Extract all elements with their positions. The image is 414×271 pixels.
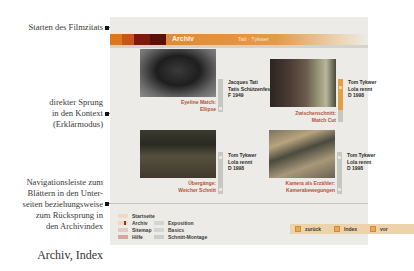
menu-label: Sitemap [132,227,151,233]
header-block [110,34,122,45]
annotation-text: (Erklärmodus) [49,119,103,130]
menu-swatch [118,228,128,232]
film-info: Tom Tykwer Lola rennt D 1998 [347,152,375,172]
nav-index-button[interactable]: Index [334,224,357,234]
scroll-knob[interactable] [339,86,342,89]
scroll-knob[interactable] [219,107,222,110]
menu-label: Exposition [168,220,194,226]
menu-label: Schnitt-Montage [168,234,207,240]
scroll-knob[interactable] [219,188,222,191]
film-thumbnail[interactable] [140,130,216,178]
annotation-text: Blättern in den Unter- [23,188,103,199]
annotation-text: Starten des Filmzitats [29,22,103,32]
film-year: D 1998 [228,165,256,172]
menu-swatch [154,228,164,232]
film-info: Tom Tykwer Lola rennt D 1998 [348,79,376,99]
tile-scrollbar[interactable] [337,152,342,194]
scroll-knob[interactable] [219,156,222,159]
forward-icon [370,226,376,232]
menu-item-startseite[interactable]: Startseite [118,213,155,219]
tile-caption[interactable]: Kamera als Erzähler: Kamerabewegungen [269,180,335,193]
scroll-knob[interactable] [338,156,341,159]
menu-item-sitemap[interactable]: Sitemap [118,227,151,233]
film-thumbnail[interactable] [270,59,336,107]
header-title-area: Archiv Tati · Tykwer [166,34,368,45]
menu-item-archiv[interactable]: Archiv [118,220,148,226]
index-icon [334,226,340,232]
menu-swatch [154,235,164,239]
nav-label: vor [380,226,388,232]
menu-item-exposition[interactable]: Exposition [154,220,194,226]
section-subtitle: Tati · Tykwer [238,36,269,42]
annotation-text: den Archivindex [23,221,103,232]
annotation-text: Navigationsleiste zum [23,177,103,188]
menu-label: Archiv [132,220,148,226]
director: Tom Tykwer [347,152,375,159]
tile-scrollbar-lower[interactable] [338,110,343,122]
film-thumbnail[interactable] [269,130,335,178]
navigation-bar: zurück Index vor [290,224,414,234]
back-icon [295,226,301,232]
menu-swatch [118,214,128,218]
nav-forward-button[interactable]: vor [370,224,388,234]
film-info: Jacques Tati Tatis Schützenfest F 1949 [228,79,272,99]
menu-label: Hilfe [132,234,143,240]
menu-label: Basics [168,227,184,233]
nav-label: Index [344,226,357,232]
director: Tom Tykwer [348,79,376,86]
film-year: F 1949 [228,92,272,99]
header-block [150,34,166,45]
header-subbar [110,45,368,48]
caption-line: Kamerabewegungen [269,187,335,194]
menu-swatch [154,221,164,225]
header-bar: Archiv Tati · Tykwer [110,34,368,45]
caption-line: Match Cut [270,117,336,124]
menu-item-basics[interactable]: Basics [154,227,184,233]
tile-caption[interactable]: Eyeline Match: Ellipse [140,99,216,112]
figure-caption: Archiv, Index [37,248,103,263]
header-block [122,34,134,45]
film-thumbnail[interactable] [140,49,216,97]
annotation-text: in den Kontext [49,108,103,119]
footer-divider [110,203,368,204]
film-year: D 1998 [348,92,376,99]
tile-caption[interactable]: Übergänge: Weicher Schnitt [140,180,216,193]
annotation-text: seiten beziehungsweise [23,199,103,210]
nav-label: zurück [305,226,321,232]
annotation-navigation-bar: Navigationsleiste zum Blättern in den Un… [23,177,103,232]
scroll-knob[interactable] [338,188,341,191]
director: Tom Tykwer [228,152,256,159]
menu-item-schnitt-montage[interactable]: Schnitt-Montage [154,234,207,240]
nav-back-button[interactable]: zurück [295,224,321,234]
caption-line: Weicher Schnitt [140,187,216,194]
tile-scrollbar[interactable] [218,79,223,112]
annotation-direct-jump: direkter Sprung in den Kontext (Erklärmo… [49,97,103,130]
film-year: D 1998 [347,165,375,172]
annotation-text: direkter Sprung [49,97,103,108]
menu-item-hilfe[interactable]: Hilfe [118,234,143,240]
tile-caption[interactable]: Zwischenschnitt: Match Cut [270,110,336,123]
header-block [134,34,150,45]
annotation-start-film-quote: Starten des Filmzitats [29,22,103,33]
section-title: Archiv [172,35,194,42]
tile-scrollbar[interactable] [218,152,223,194]
menu-label: Startseite [132,213,155,219]
archive-index-screen: Archiv Tati · Tykwer Eyeline Match: Elli… [110,17,368,245]
menu-swatch [118,221,128,225]
menu-swatch [118,235,128,239]
caption-line: Ellipse [140,106,216,113]
annotation-text: zum Rücksprung in [23,210,103,221]
film-info: Tom Tykwer Lola rennt D 1998 [228,152,256,172]
